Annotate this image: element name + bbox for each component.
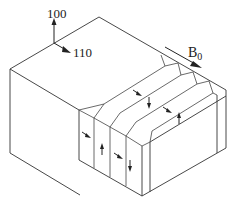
- closure-domain: [193, 72, 209, 84]
- field-label: B0: [188, 45, 202, 62]
- domain-wall: [120, 75, 181, 113]
- right-top-edge: [150, 96, 226, 142]
- arrow-down-icon: [128, 166, 132, 172]
- closure-domain: [94, 113, 120, 127]
- arrow-down-icon: [147, 103, 151, 109]
- top-front-edge: [10, 69, 79, 110]
- top-magnetization: [133, 90, 181, 124]
- left-face-edge: [10, 69, 80, 195]
- arrow-diagonal-icon: [136, 91, 142, 96]
- arrow-up-icon: [100, 143, 104, 149]
- axis-110-label: 110: [73, 45, 92, 60]
- front-domain-walls: [94, 118, 126, 186]
- closure-domain: [209, 81, 217, 95]
- bottom-front-edge: [79, 160, 142, 196]
- diagram-canvas: 100 110 B0: [0, 0, 236, 199]
- domain-diagram: 100 110 B0: [0, 0, 236, 199]
- top-domain-walls: [79, 55, 217, 146]
- domain-wall: [152, 93, 213, 131]
- axis-100-label: 100: [47, 6, 67, 21]
- arrow-diagonal-icon: [117, 154, 123, 159]
- arrow-diagonal-icon: [166, 108, 172, 113]
- axis-110: 110: [54, 43, 92, 60]
- arrow-diagonal-icon: [62, 46, 71, 53]
- closure-domain: [126, 131, 152, 146]
- arrow-diagonal-icon: [85, 133, 91, 138]
- right-bottom-edge: [142, 148, 226, 196]
- domain-wall: [104, 66, 165, 104]
- domain-wall: [136, 84, 197, 122]
- crystal-block: [10, 17, 226, 196]
- closure-domain: [79, 104, 104, 118]
- closure-domain: [110, 122, 136, 136]
